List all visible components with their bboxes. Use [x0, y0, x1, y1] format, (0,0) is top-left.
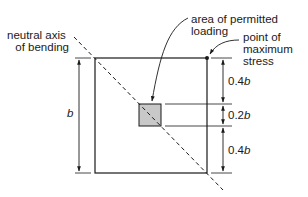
neutral-axis-line — [74, 37, 223, 190]
area-leader-line — [152, 18, 188, 101]
neutral-axis-label: neutral axis of bending — [7, 29, 69, 53]
point-of-maximum-stress-label: point of maximum stress — [243, 31, 296, 67]
dimension-bottom-label: 0.4b — [228, 144, 251, 156]
max-stress-point — [205, 56, 209, 60]
max-stress-leader-line — [210, 40, 239, 54]
kern-diagram: b 0.4b 0.2b 0.4b neutral axis of bending… — [0, 0, 308, 197]
dimension-mid-label: 0.2b — [228, 109, 251, 121]
dimension-b-label: b — [67, 107, 74, 119]
dimension-top-label: 0.4b — [228, 75, 251, 87]
